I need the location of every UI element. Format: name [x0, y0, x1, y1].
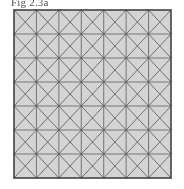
- mesh-diagram-svg: [12, 8, 173, 180]
- mesh-figure: [12, 8, 173, 180]
- figure-page: Fig 2.3a: [0, 0, 184, 189]
- figure-caption: Fig 2.3a: [11, 0, 49, 8]
